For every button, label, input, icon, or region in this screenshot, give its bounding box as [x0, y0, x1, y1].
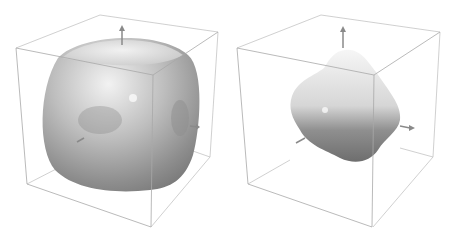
- z-axis-arrowhead: [340, 26, 346, 32]
- figure-canvas: [0, 0, 453, 240]
- lobed-octahedron-surface: [290, 50, 400, 162]
- x-axis-arrow: [190, 126, 197, 127]
- surface-highlight: [322, 107, 328, 113]
- left-panel: [16, 15, 218, 227]
- x-axis-arrowhead: [409, 125, 415, 131]
- right-panel: [237, 15, 440, 227]
- z-axis-arrowhead: [119, 25, 125, 31]
- surface-dimple: [78, 106, 122, 134]
- x-axis-arrow: [400, 126, 410, 128]
- y-axis-arrow: [296, 138, 305, 143]
- surface-highlight: [129, 94, 137, 102]
- surface-dimple: [171, 100, 189, 136]
